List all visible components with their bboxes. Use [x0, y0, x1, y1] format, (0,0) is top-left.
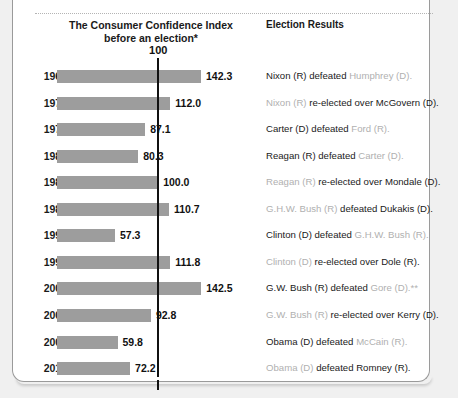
result-incumbent-text: McCain (R). [356, 336, 407, 347]
table-row: 1968142.3Nixon (R) defeated Humphrey (D)… [13, 68, 431, 84]
left-column-header-line1: The Consumer Confidence Index [51, 19, 251, 32]
election-result-text: Reagan (R) defeated Carter (D). [266, 148, 404, 164]
election-result-text: Nixon (R) defeated Humphrey (D). [266, 68, 412, 84]
confidence-index-bar [57, 70, 201, 83]
result-main-text: defeated Romney (R). [316, 362, 410, 373]
table-row: 1988110.7G.H.W. Bush (R) defeated Dukaki… [13, 201, 431, 217]
confidence-index-bar [57, 150, 138, 163]
election-result-text: Carter (D) defeated Ford (R). [266, 121, 390, 137]
election-result-text: Reagan (R) re-elected over Mondale (D). [266, 174, 440, 190]
confidence-index-bar [57, 309, 151, 322]
table-row: 199257.3Clinton (D) defeated G.H.W. Bush… [13, 227, 431, 243]
result-incumbent-text: Ford (R). [351, 123, 389, 134]
bar-value-label: 57.3 [120, 227, 140, 243]
confidence-index-bar [57, 256, 170, 269]
result-main-text: re-elected over Dole (R). [315, 256, 420, 267]
reference-line-100 [157, 58, 159, 377]
confidence-index-bar [57, 97, 170, 110]
result-main-text: Obama (D) defeated [266, 336, 356, 347]
result-main-text: Nixon (R) defeated [266, 70, 349, 81]
table-row: 197687.1Carter (D) defeated Ford (R). [13, 121, 431, 137]
bar-value-label: 72.2 [135, 360, 155, 376]
result-incumbent-text: Reagan (R) [266, 176, 318, 187]
election-result-text: G.H.W. Bush (R) defeated Dukakis (D). [266, 201, 433, 217]
bar-value-label: 80.3 [143, 148, 163, 164]
result-incumbent-text: G.H.W. Bush (R) [266, 203, 340, 214]
result-incumbent-text: G.W. Bush (R) [266, 309, 331, 320]
result-incumbent-text: Nixon (R) [266, 97, 309, 108]
result-main-text: re-elected over Mondale (D). [318, 176, 440, 187]
confidence-index-bar [57, 229, 115, 242]
election-result-text: Obama (D) defeated Romney (R). [266, 360, 411, 376]
election-result-text: Clinton (D) defeated G.H.W. Bush (R). [266, 227, 429, 243]
result-main-text: Carter (D) defeated [266, 123, 351, 134]
result-incumbent-text: G.H.W. Bush (R). [355, 229, 429, 240]
table-row: 1972112.0Nixon (R) re-elected over McGov… [13, 95, 431, 111]
result-main-text: Clinton (D) defeated [266, 229, 355, 240]
bar-value-label: 112.0 [175, 95, 201, 111]
reference-line-tick [157, 380, 159, 390]
confidence-index-bar [57, 176, 158, 189]
result-main-text: defeated Dukakis (D). [340, 203, 433, 214]
chart-card: The Consumer Confidence Index before an … [12, 0, 430, 382]
result-main-text: G.W. Bush (R) defeated [266, 282, 371, 293]
bar-value-label: 87.1 [150, 121, 170, 137]
reference-value-label: 100 [149, 44, 167, 56]
election-result-text: Clinton (D) re-elected over Dole (R). [266, 254, 420, 270]
bar-value-label: 111.8 [175, 254, 200, 270]
confidence-index-bar [57, 123, 145, 136]
confidence-index-bar [57, 362, 130, 375]
table-row: 1984100.0Reagan (R) re-elected over Mond… [13, 174, 431, 190]
bar-value-label: 142.5 [206, 280, 232, 296]
bar-value-label: 100.0 [163, 174, 189, 190]
result-incumbent-text: Gore (D).** [371, 282, 418, 293]
table-row: 1996111.8Clinton (D) re-elected over Dol… [13, 254, 431, 270]
result-main-text: Reagan (R) defeated [266, 150, 358, 161]
confidence-index-bar [57, 336, 118, 349]
infographic-root: CONSUMER CONFIDENCE AND PRESIDENTIAL ELE… [0, 0, 458, 398]
table-row: 198080.3Reagan (R) defeated Carter (D). [13, 148, 431, 164]
header-divider [35, 13, 433, 14]
result-incumbent-text: Clinton (D) [266, 256, 315, 267]
table-row: 200859.8Obama (D) defeated McCain (R). [13, 334, 431, 350]
bar-value-label: 142.3 [206, 68, 232, 84]
result-main-text: re-elected over Kerry (D). [331, 309, 439, 320]
table-row: 200492.8G.W. Bush (R) re-elected over Ke… [13, 307, 431, 323]
bar-value-label: 110.7 [174, 201, 200, 217]
confidence-index-bar [57, 203, 169, 216]
result-incumbent-text: Carter (D). [358, 150, 403, 161]
confidence-index-bar [57, 282, 201, 295]
election-result-text: G.W. Bush (R) defeated Gore (D).** [266, 280, 418, 296]
result-incumbent-text: Obama (D) [266, 362, 316, 373]
table-row: 2000142.5G.W. Bush (R) defeated Gore (D)… [13, 280, 431, 296]
table-row: 201272.2Obama (D) defeated Romney (R). [13, 360, 431, 376]
result-main-text: re-elected over McGovern (D). [309, 97, 439, 108]
left-column-header: The Consumer Confidence Index before an … [51, 19, 251, 44]
right-column-header: Election Results [266, 19, 441, 30]
result-incumbent-text: Humphrey (D). [349, 70, 412, 81]
election-result-text: G.W. Bush (R) re-elected over Kerry (D). [266, 307, 439, 323]
election-result-text: Obama (D) defeated McCain (R). [266, 334, 407, 350]
left-column-header-line2: before an election* [51, 32, 251, 45]
bar-value-label: 59.8 [123, 334, 143, 350]
election-result-text: Nixon (R) re-elected over McGovern (D). [266, 95, 439, 111]
